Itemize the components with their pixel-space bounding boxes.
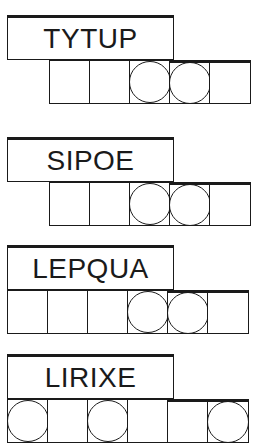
- circle-marker-icon: [207, 401, 249, 443]
- answer-cell-4-circled[interactable]: [169, 60, 211, 104]
- answer-cell-2[interactable]: [47, 399, 89, 443]
- answer-cell-5[interactable]: [167, 399, 209, 443]
- circle-marker-icon: [129, 61, 171, 103]
- answer-cell-2[interactable]: [47, 290, 89, 334]
- circle-marker-icon: [129, 183, 171, 225]
- answer-cell-6-circled[interactable]: [207, 399, 249, 443]
- answer-cells: [49, 182, 251, 226]
- circle-marker-icon: [127, 291, 169, 333]
- answer-cell-5-circled[interactable]: [167, 290, 209, 334]
- answer-cells: [49, 60, 251, 104]
- answer-cell-5[interactable]: [209, 60, 251, 104]
- answer-cell-2[interactable]: [89, 182, 131, 226]
- scrambled-word: SIPOE: [7, 137, 174, 182]
- answer-cell-3-circled[interactable]: [129, 182, 171, 226]
- answer-cell-4-circled[interactable]: [169, 182, 211, 226]
- circle-marker-icon: [169, 184, 211, 226]
- answer-cell-6[interactable]: [207, 290, 249, 334]
- answer-cell-4[interactable]: [127, 399, 169, 443]
- answer-cell-4-circled[interactable]: [127, 290, 169, 334]
- answer-cells: [7, 290, 249, 334]
- circle-marker-icon: [7, 400, 49, 442]
- answer-cells: [7, 399, 249, 443]
- answer-cell-1-circled[interactable]: [7, 399, 49, 443]
- answer-cell-1[interactable]: [49, 182, 91, 226]
- answer-cell-5[interactable]: [209, 182, 251, 226]
- circle-marker-icon: [87, 400, 129, 442]
- scrambled-word: LEPQUA: [7, 245, 174, 290]
- answer-cell-3[interactable]: [87, 290, 129, 334]
- scrambled-word: LIRIXE: [7, 354, 174, 399]
- answer-cell-1[interactable]: [49, 60, 91, 104]
- answer-cell-3-circled[interactable]: [129, 60, 171, 104]
- answer-cell-1[interactable]: [7, 290, 49, 334]
- circle-marker-icon: [167, 292, 209, 334]
- answer-cell-2[interactable]: [89, 60, 131, 104]
- scrambled-word: TYTUP: [7, 15, 174, 60]
- answer-cell-3-circled[interactable]: [87, 399, 129, 443]
- circle-marker-icon: [169, 62, 211, 104]
